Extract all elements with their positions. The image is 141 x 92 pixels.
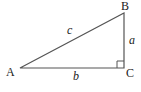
right-angle-marker <box>117 61 124 68</box>
triangle-diagram: A B C c a b <box>0 0 141 92</box>
side-label-a: a <box>129 33 135 47</box>
triangle-shape <box>20 13 124 68</box>
side-label-c: c <box>67 23 73 37</box>
triangle-svg: A B C c a b <box>0 0 141 92</box>
side-label-b: b <box>73 69 79 83</box>
vertex-label-c: C <box>126 66 134 80</box>
vertex-label-a: A <box>6 65 15 79</box>
vertex-label-b: B <box>121 0 129 13</box>
